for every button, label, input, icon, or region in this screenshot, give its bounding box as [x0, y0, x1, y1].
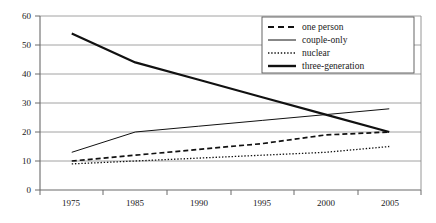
series-line-one-person — [72, 132, 390, 161]
x-tick-label-2000: 2000 — [317, 198, 336, 208]
chart-canvas: 60 50 40 30 20 10 0 1975 1985 1990 1995 … — [0, 0, 436, 223]
x-tick-label-1990: 1990 — [190, 198, 209, 208]
line-chart: 60 50 40 30 20 10 0 1975 1985 1990 1995 … — [0, 0, 436, 223]
y-tick-label-20: 20 — [22, 127, 32, 137]
legend-label-three-generation: three-generation — [302, 61, 364, 71]
y-tick-label-30: 30 — [22, 98, 32, 108]
legend-label-couple-only: couple-only — [302, 35, 348, 45]
series-line-couple-only — [72, 109, 390, 153]
x-tickmarks — [40, 190, 421, 195]
x-tick-label-2005: 2005 — [381, 198, 400, 208]
y-tickmarks — [35, 16, 40, 190]
legend-label-nuclear: nuclear — [302, 48, 331, 58]
legend-label-one-person: one person — [302, 22, 344, 32]
y-tick-label-40: 40 — [22, 69, 32, 79]
y-tick-label-10: 10 — [22, 156, 32, 166]
y-tick-labels: 60 50 40 30 20 10 0 — [22, 11, 32, 195]
x-tick-label-1985: 1985 — [126, 198, 145, 208]
y-tick-label-60: 60 — [22, 11, 32, 21]
y-tick-label-50: 50 — [22, 40, 32, 50]
x-tick-label-1975: 1975 — [62, 198, 81, 208]
x-tick-labels: 1975 1985 1990 1995 2000 2005 — [62, 198, 400, 208]
x-tick-label-1995: 1995 — [253, 198, 272, 208]
legend: one person couple-only nuclear three-gen… — [262, 17, 414, 73]
y-tick-label-0: 0 — [27, 185, 32, 195]
